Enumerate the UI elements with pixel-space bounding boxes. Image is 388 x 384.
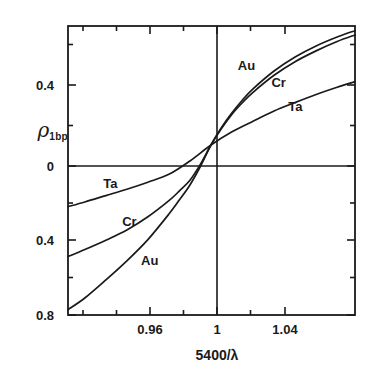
y-tick-label-3: 0.8	[8, 309, 54, 322]
x-axis-title: 5400/λ	[157, 348, 277, 362]
tick-marks	[68, 26, 355, 315]
zero-axis-lines	[68, 26, 355, 315]
curve-label-cr-upper: Cr	[271, 76, 285, 89]
x-tick-label-2: 1.04	[259, 323, 311, 336]
y-tick-label-0: 0.4	[8, 79, 54, 92]
curve-cr	[68, 35, 355, 257]
x-axis-title-text: 5400/λ	[196, 347, 239, 363]
plot-frame	[68, 26, 355, 315]
y-tick-label-2: 0.4	[8, 234, 54, 247]
curve-label-ta-lower: Ta	[103, 177, 117, 190]
rho-symbol: ρ	[38, 118, 50, 142]
curve-label-au-lower: Au	[141, 254, 158, 267]
x-tick-label-0: 0.96	[124, 323, 176, 336]
data-curves	[68, 31, 355, 310]
curve-au	[68, 31, 355, 310]
curve-label-ta-upper: Ta	[288, 100, 302, 113]
x-tick-label-1: 1	[191, 323, 243, 336]
y-tick-label-1: 0	[8, 160, 54, 173]
y-axis-title: ρ1bp	[14, 120, 68, 142]
curve-label-cr-lower: Cr	[122, 215, 136, 228]
curve-label-au-upper: Au	[238, 59, 255, 72]
figure-container: ρ1bp 0.4 0 0.4 0.8 0.96 1 1.04 5400/λ Au…	[0, 0, 388, 384]
rho-subscript: 1bp	[49, 131, 68, 142]
